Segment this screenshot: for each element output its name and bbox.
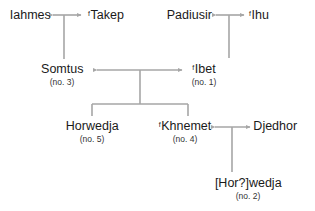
person-name: Djedhor [253,119,297,133]
person-name: fIhu [249,8,269,22]
person-name: fTakep [88,8,124,22]
person-name: Somtus [41,62,84,76]
family-tree-diagram: Iahmes fTakep Padiusir fIhu Somtus (no. … [0,0,315,211]
person-number: (no. 4) [159,134,211,145]
person-number: (no. 3) [41,77,84,88]
person-number: (no. 1) [192,77,217,88]
person-number: (no. 2) [214,191,281,202]
person-takep: fTakep [88,8,124,22]
person-djedhor: Djedhor [253,119,297,133]
person-name: Horwedja [65,119,118,133]
person-ihu: fIhu [249,8,269,22]
person-horwedja: Horwedja (no. 5) [65,119,118,145]
person-number: (no. 5) [65,134,118,145]
person-iahmes: Iahmes [9,8,51,22]
person-horwedja-2: [Hor?]wedja (no. 2) [214,176,281,202]
person-name: Padiusir [166,8,212,22]
person-khnemet: fKhnemet (no. 4) [159,119,211,145]
person-name: fKhnemet [159,119,211,133]
person-ibet: fIbet (no. 1) [192,62,217,88]
person-name: [Hor?]wedja [214,176,281,190]
person-name: Iahmes [9,8,51,22]
person-name: fIbet [192,62,217,76]
person-somtus: Somtus (no. 3) [41,62,84,88]
person-padiusir: Padiusir [166,8,212,22]
